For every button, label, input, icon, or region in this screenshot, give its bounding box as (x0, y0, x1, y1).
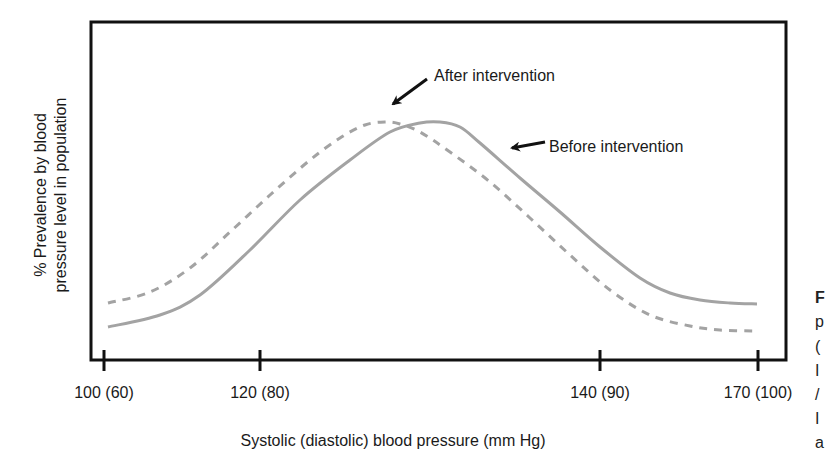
x-tick-label: 100 (60) (74, 384, 134, 401)
y-axis-label-line-1: % Prevalence by blood (32, 113, 49, 277)
caption-fragment: / (815, 387, 819, 403)
after-intervention-label: After intervention (434, 67, 555, 84)
x-axis-ticks: 100 (60)120 (80)140 (90)170 (100) (74, 350, 792, 401)
caption-fragment: a (815, 435, 824, 451)
x-tick-label: 140 (90) (570, 384, 630, 401)
x-tick-label: 170 (100) (724, 384, 793, 401)
caption-fragment: I (815, 411, 819, 427)
x-axis-label: Systolic (diastolic) blood pressure (mm … (241, 432, 546, 449)
y-axis-label-line-2: pressure level in population (52, 98, 69, 293)
after-intervention-arrow-icon (393, 79, 427, 104)
x-tick-label: 120 (80) (230, 384, 290, 401)
prevalence-chart: 100 (60)120 (80)140 (90)170 (100) After … (0, 0, 827, 464)
before-intervention-arrow-icon (512, 142, 545, 148)
caption-fragment: p (815, 314, 824, 330)
caption-fragment: ( (815, 339, 820, 355)
before-intervention-label: Before intervention (549, 138, 683, 155)
caption-fragment: I (815, 363, 819, 379)
caption-fragment: F (815, 290, 825, 306)
